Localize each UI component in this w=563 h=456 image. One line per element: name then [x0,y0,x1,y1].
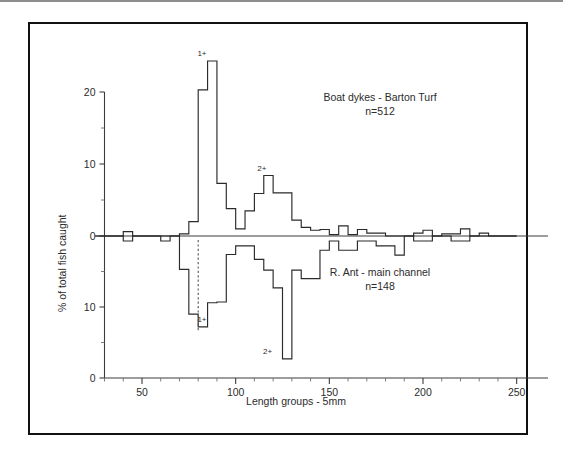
bottom-panel-caption-line1: R. Ant - main channel [330,266,430,278]
x-tick-label-150: 150 [321,386,339,398]
x-tick-label-250: 250 [508,386,526,398]
x-tick-label-100: 100 [227,386,245,398]
y-tick-label-bottom-20: 0 [90,372,96,384]
age-label-bottom-2plus: 2+ [263,347,272,356]
histogram-bottom-r-ant [95,236,517,359]
bottom-panel-caption-line2: n=148 [365,280,395,292]
chart-canvas: % of total fish caught Length groups - 5… [0,0,563,456]
top-panel-caption-line2: n=512 [365,105,395,117]
histogram-figure: % of total fish caught Length groups - 5… [0,0,563,456]
axes-group: 0102010050100150200250 [84,86,548,398]
annotation-group: 1+2+1+2+ [197,49,272,356]
age-label-bottom-1plus: 1+ [197,315,206,324]
histogram-top-boat-dykes [95,61,517,236]
age-label-top-1plus: 1+ [197,49,206,58]
y-tick-label-top-0: 0 [90,230,96,242]
age-label-top-2plus: 2+ [257,164,266,173]
y-tick-label-top-10: 10 [84,158,96,170]
x-tick-label-200: 200 [414,386,432,398]
x-tick-label-50: 50 [136,386,148,398]
series-group [95,61,517,359]
y-axis-title: % of total fish caught [56,214,68,312]
top-panel-caption-line1: Boat dykes - Barton Turf [323,91,436,103]
y-tick-label-bottom-10: 10 [84,301,96,313]
y-tick-label-top-20: 20 [84,86,96,98]
